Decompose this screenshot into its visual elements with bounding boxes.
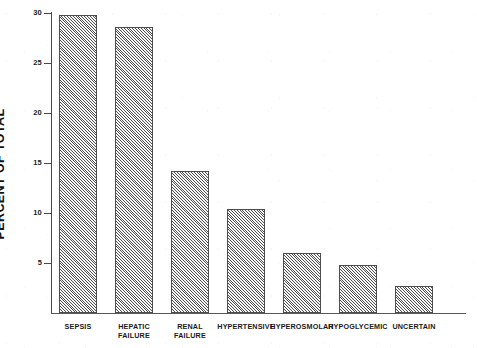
- y-tick-label: 25: [20, 58, 42, 67]
- x-category-label-line: FAILURE: [150, 331, 230, 340]
- bar-chart: PERCENT OF TOTAL 30252015105 SEPSISHEPAT…: [0, 0, 477, 348]
- bar: [283, 253, 321, 313]
- y-tick-label: 5: [20, 258, 42, 267]
- y-tick-label: 20: [20, 108, 42, 117]
- bar: [227, 209, 265, 313]
- bar: [171, 171, 209, 313]
- bars-layer: [51, 13, 466, 313]
- x-axis-line: [51, 313, 466, 314]
- y-tick-label: 15: [20, 158, 42, 167]
- bar: [395, 286, 433, 313]
- bar: [339, 265, 377, 313]
- y-tick-label: 10: [20, 208, 42, 217]
- x-category-label: UNCERTAIN: [374, 322, 454, 331]
- bar: [115, 27, 153, 313]
- bar: [59, 15, 97, 313]
- y-tick-label: 30: [20, 8, 42, 17]
- x-axis-category-labels: SEPSISHEPATICFAILURERENALFAILUREHYPERTEN…: [51, 322, 466, 348]
- x-category-label-line: UNCERTAIN: [374, 322, 454, 331]
- y-axis-title: PERCENT OF TOTAL: [0, 0, 40, 348]
